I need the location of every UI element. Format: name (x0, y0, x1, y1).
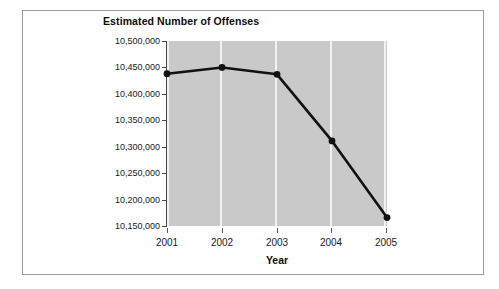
x-tick-label: 2004 (306, 237, 356, 248)
gridline-2005 (384, 41, 386, 226)
x-tick-mark (222, 228, 223, 233)
y-tick-mark (162, 200, 167, 201)
y-tick-mark (162, 41, 167, 42)
y-tick-mark (162, 173, 167, 174)
x-tick-label: 2001 (142, 237, 192, 248)
y-tick-label: 10,300,000 (98, 142, 160, 152)
gridline-2002 (220, 41, 222, 226)
plot-area (167, 41, 387, 226)
x-tick-label: 2002 (197, 237, 247, 248)
x-tick-label: 2003 (252, 237, 302, 248)
y-tick-label: 10,350,000 (98, 115, 160, 125)
x-tick-mark (277, 228, 278, 233)
gridline-2003 (275, 41, 277, 226)
chart-figure: Estimated Number of Offenses 10,500,000 … (0, 0, 499, 289)
y-tick-label: 10,450,000 (98, 62, 160, 72)
x-tick-mark (386, 228, 387, 233)
y-tick-mark (162, 226, 167, 227)
y-tick-label: 10,500,000 (98, 36, 160, 46)
y-tick-label: 10,250,000 (98, 168, 160, 178)
y-tick-mark (162, 94, 167, 95)
x-tick-label: 2005 (361, 237, 411, 248)
y-tick-mark (162, 120, 167, 121)
x-tick-mark (167, 228, 168, 233)
gridline-2001 (167, 41, 169, 226)
y-tick-label: 10,400,000 (98, 89, 160, 99)
y-tick-label: 10,200,000 (98, 195, 160, 205)
y-tick-label: 10,150,000 (98, 221, 160, 231)
gridline-2004 (330, 41, 332, 226)
y-tick-mark (162, 147, 167, 148)
x-axis-title: Year (167, 254, 387, 266)
y-tick-mark (162, 67, 167, 68)
x-tick-mark (331, 228, 332, 233)
